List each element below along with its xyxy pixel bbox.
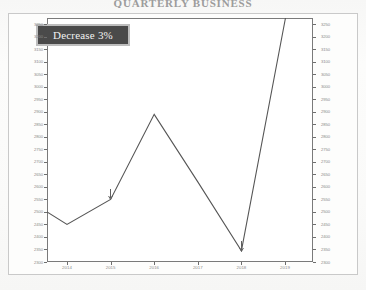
y-axis-right-tick-label: 2550 [321,197,343,202]
chart-title: QUARTERLY BUSINESS [0,0,366,8]
y-axis-left-tickmark [44,262,47,263]
y-axis-left-tick-label: 2850 [21,122,43,127]
y-axis-left-tickmark [44,49,47,50]
x-axis-tick-label: 2014 [54,265,80,271]
y-axis-right-tick-label: 2800 [321,134,343,139]
y-axis-right-tickmark [313,49,316,50]
y-axis-left-tick-label: 2600 [21,184,43,189]
arrow-2015-icon [107,186,114,197]
y-axis-left-tick-label: 2400 [21,234,43,239]
y-axis-right-tickmark [313,262,316,263]
y-axis-left-tickmark [44,74,47,75]
y-axis-left-tickmark [44,199,47,200]
y-axis-right-tick-label: 2900 [321,109,343,114]
y-axis-right-tick-label: 2400 [321,234,343,239]
y-axis-right-tick-label: 2300 [321,260,343,265]
y-axis-right-tickmark [313,87,316,88]
y-axis-left-tickmark [44,149,47,150]
x-axis-tick-label: 2018 [228,265,254,271]
y-axis-left-tick-label: 2500 [21,209,43,214]
y-axis-left-tick-label: 2950 [21,97,43,102]
y-axis-left-tickmark [44,212,47,213]
y-axis-left-tick-label: 2300 [21,260,43,265]
y-axis-left-tick-label: 2750 [21,147,43,152]
y-axis-left-tick-label: 3000 [21,84,43,89]
callout-box: Decrease 3% [36,24,130,46]
x-axis-tick-label: 2019 [272,265,298,271]
y-axis-left-tickmark [44,224,47,225]
y-axis-left-tickmark [44,187,47,188]
y-axis-right-tickmark [313,74,316,75]
y-axis-left-tick-label: 2650 [21,172,43,177]
y-axis-right-tickmark [313,137,316,138]
y-axis-right-tickmark [313,212,316,213]
x-axis-tick-label: 2015 [98,265,124,271]
y-axis-right-tickmark [313,174,316,175]
y-axis-left-tick-label: 2700 [21,159,43,164]
y-axis-right-tickmark [313,199,316,200]
y-axis-right-tickmark [313,149,316,150]
y-axis-left-tickmark [44,87,47,88]
y-axis-right-tickmark [313,249,316,250]
y-axis-left-tickmark [44,162,47,163]
y-axis-left-tick-label: 3250 [21,22,43,27]
y-axis-right-tick-label: 2350 [321,247,343,252]
y-axis-right-tick-label: 2950 [321,97,343,102]
y-axis-right-tick-label: 3150 [321,47,343,52]
y-axis-right-tickmark [313,37,316,38]
y-axis-right-tickmark [313,124,316,125]
callout-label: Decrease 3% [53,29,113,41]
x-axis-tick-label: 2017 [185,265,211,271]
y-axis-left-tickmark [44,174,47,175]
y-axis-left-tickmark [44,124,47,125]
y-axis-left-tick-label: 3050 [21,72,43,77]
y-axis-right-tick-label: 2500 [321,209,343,214]
y-axis-left-tick-label: 2800 [21,134,43,139]
y-axis-right-tick-label: 3100 [321,59,343,64]
y-axis-left-tick-label: 3200 [21,34,43,39]
y-axis-left-tickmark [44,237,47,238]
y-axis-left-tickmark [44,99,47,100]
y-axis-left-tick-label: 2450 [21,222,43,227]
x-axis-tick-label: 2016 [141,265,167,271]
y-axis-left-tickmark [44,112,47,113]
y-axis-right-tick-label: 2650 [321,172,343,177]
y-axis-left-tick-label: 3150 [21,47,43,52]
y-axis-right-tickmark [313,187,316,188]
y-axis-right-tickmark [313,224,316,225]
y-axis-left-tickmark [44,62,47,63]
y-axis-left-tickmark [44,249,47,250]
y-axis-right-tick-label: 3050 [321,72,343,77]
chart-page: QUARTERLY BUSINESS Decrease 3% 325032503… [0,0,366,290]
y-axis-left-tick-label: 2900 [21,109,43,114]
line-chart-svg [47,18,313,262]
y-axis-right-tick-label: 2750 [321,147,343,152]
y-axis-right-tick-label: 2700 [321,159,343,164]
y-axis-left-tickmark [44,37,47,38]
y-axis-right-tick-label: 3000 [321,84,343,89]
data-series-line [47,18,313,251]
y-axis-left-tickmark [44,24,47,25]
y-axis-left-tick-label: 2350 [21,247,43,252]
y-axis-right-tick-label: 3250 [321,22,343,27]
y-axis-right-tick-label: 2600 [321,184,343,189]
arrow-2018-icon [238,238,245,249]
y-axis-right-tick-label: 2850 [321,122,343,127]
y-axis-left-tick-label: 3100 [21,59,43,64]
y-axis-left-tick-label: 2550 [21,197,43,202]
y-axis-right-tickmark [313,24,316,25]
y-axis-right-tickmark [313,62,316,63]
y-axis-right-tick-label: 2450 [321,222,343,227]
y-axis-right-tickmark [313,237,316,238]
y-axis-left-tickmark [44,137,47,138]
y-axis-right-tickmark [313,162,316,163]
y-axis-right-tick-label: 3200 [321,34,343,39]
y-axis-right-tickmark [313,112,316,113]
y-axis-right-tickmark [313,99,316,100]
